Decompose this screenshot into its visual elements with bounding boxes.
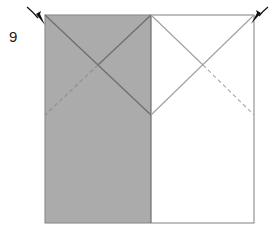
step-number-label: 9 xyxy=(9,28,17,45)
paper-right-half-plain xyxy=(151,15,254,223)
figure-canvas: 9 xyxy=(0,0,270,235)
origami-figure: 9 xyxy=(0,0,270,235)
paper-left-half-shaded xyxy=(45,15,151,223)
